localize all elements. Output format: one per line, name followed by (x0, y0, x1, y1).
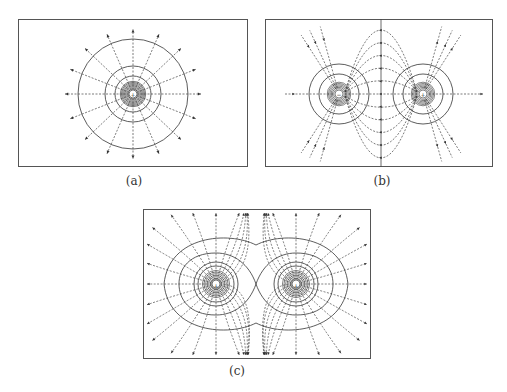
panel-b-dipole: − + (265, 19, 493, 167)
panel-c-like-charges: + + (143, 209, 371, 359)
charge-label-right: + (420, 91, 425, 98)
caption-b: (b) (362, 174, 402, 188)
caption-c: (c) (217, 364, 257, 378)
caption-a: (a) (114, 174, 154, 188)
charge-label: + (130, 91, 135, 98)
charge-label-right: + (293, 282, 298, 289)
field-diagram-b: − + (265, 19, 493, 167)
frame (266, 20, 493, 167)
panel-a-single-charge: + (18, 19, 248, 167)
charge-label-left: + (213, 282, 218, 289)
field-diagram-a: + (18, 19, 248, 167)
charge-label-left: − (336, 91, 341, 98)
field-diagram-c: + + (143, 209, 371, 359)
